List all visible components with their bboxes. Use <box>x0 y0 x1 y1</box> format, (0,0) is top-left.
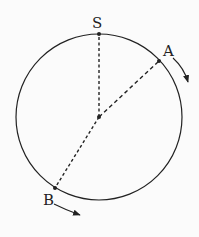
label-s: S <box>92 14 102 32</box>
radius-to-a <box>99 61 159 117</box>
point-s <box>97 32 101 36</box>
label-b: B <box>43 191 54 209</box>
label-a: A <box>162 42 174 60</box>
radius-to-b <box>55 117 99 188</box>
point-b <box>53 186 57 190</box>
arrow-a-clockwise-icon <box>173 58 188 82</box>
arrow-b-direction-icon <box>54 204 80 215</box>
circular-track-diagram: S A B <box>0 0 199 237</box>
point-a <box>157 59 161 63</box>
center-point <box>97 115 101 119</box>
